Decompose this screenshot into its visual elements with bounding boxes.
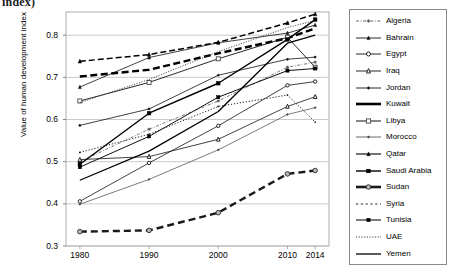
legend-label: Syria	[384, 200, 404, 208]
legend-key-square-filled	[353, 164, 384, 178]
legend-item-egypt[interactable]: Egypt	[350, 46, 446, 63]
y-axis-tick-label: 0.6	[32, 114, 58, 124]
legend-item-jordan[interactable]: Jordan	[350, 79, 446, 96]
legend-key-triangle-up-filled	[353, 31, 384, 45]
y-axis-tick-label: 0.4	[32, 198, 58, 208]
legend-item-morocco[interactable]: Morocco	[350, 129, 446, 146]
legend-key-dot-small	[353, 197, 384, 211]
legend-item-bahrain[interactable]: Bahrain	[350, 30, 446, 47]
y-axis-tick-label: 0.7	[32, 72, 58, 82]
legend-label: Algeria	[384, 17, 411, 25]
legend-item-saudi-arabia[interactable]: Saudi Arabia	[350, 162, 446, 179]
legend-key-triangle-up-open	[353, 64, 384, 78]
legend-key-none	[353, 230, 384, 244]
legend-key-dot-small	[353, 97, 384, 111]
legend-key-circle-gray-filled	[353, 180, 384, 194]
chart-page: index) Value of human development index …	[0, 0, 449, 267]
legend-item-syria[interactable]: Syria	[350, 196, 446, 213]
legend-item-algeria[interactable]: Algeria	[350, 13, 446, 30]
x-axis-tick-label: 2014	[295, 250, 335, 260]
legend-item-tunisia[interactable]: Tunisia	[350, 212, 446, 229]
x-axis-tick-label: 1990	[129, 250, 169, 260]
legend-key-square-open	[353, 114, 384, 128]
legend-key-diamond-small-filled	[353, 81, 384, 95]
y-axis-tick-label: 0.8	[32, 30, 58, 40]
legend-label: Jordan	[384, 84, 410, 92]
legend-item-yemen[interactable]: Yemen	[350, 245, 446, 262]
legend-label: Yemen	[384, 250, 411, 258]
legend-label: Tunisia	[384, 216, 412, 224]
y-axis-tick-label: 0.5	[32, 156, 58, 166]
legend-label: Morocco	[384, 133, 417, 141]
legend-key-triangle-up-filled	[353, 147, 384, 161]
chart-legend: AlgeriaBahrainEgyptIraqJordanKuwaitLibya…	[349, 9, 447, 265]
legend-item-qatar[interactable]: Qatar	[350, 146, 446, 163]
legend-key-plus-marker	[353, 14, 384, 28]
x-axis-tick-label: 1980	[60, 250, 100, 260]
legend-label: Qatar	[384, 150, 406, 158]
legend-label: Kuwait	[384, 100, 410, 108]
legend-item-kuwait[interactable]: Kuwait	[350, 96, 446, 113]
legend-label: Bahrain	[384, 34, 414, 42]
legend-label: Sudan	[384, 183, 409, 191]
legend-key-none	[353, 247, 384, 261]
legend-label: Iraq	[384, 67, 400, 75]
legend-label: UAE	[384, 233, 402, 241]
legend-key-diamond-small-filled	[353, 130, 384, 144]
legend-item-uae[interactable]: UAE	[350, 229, 446, 246]
legend-label: Libya	[384, 117, 405, 125]
legend-key-square-filled	[353, 213, 384, 227]
legend-item-libya[interactable]: Libya	[350, 113, 446, 130]
legend-item-iraq[interactable]: Iraq	[350, 63, 446, 80]
legend-item-sudan[interactable]: Sudan	[350, 179, 446, 196]
legend-label: Saudi Arabia	[384, 167, 431, 175]
x-axis-tick-label: 2000	[198, 250, 238, 260]
y-axis-tick-label: 0.3	[32, 241, 58, 251]
legend-key-circle-open	[353, 47, 384, 61]
legend-label: Egypt	[384, 50, 406, 58]
